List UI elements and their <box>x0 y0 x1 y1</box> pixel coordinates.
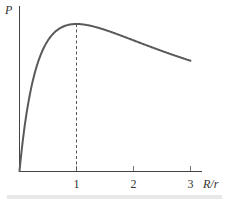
chart: 123 P R/r <box>0 0 231 203</box>
x-tick-label: 1 <box>74 177 80 191</box>
x-axis-label: R/r <box>202 177 219 191</box>
x-tick-label: 3 <box>188 177 194 191</box>
bottom-bar <box>7 195 222 199</box>
x-tick-labels: 123 <box>74 177 194 191</box>
x-tick-label: 2 <box>131 177 137 191</box>
x-ticks <box>77 166 191 171</box>
power-curve <box>20 24 191 171</box>
y-axis-label: P <box>4 3 13 17</box>
